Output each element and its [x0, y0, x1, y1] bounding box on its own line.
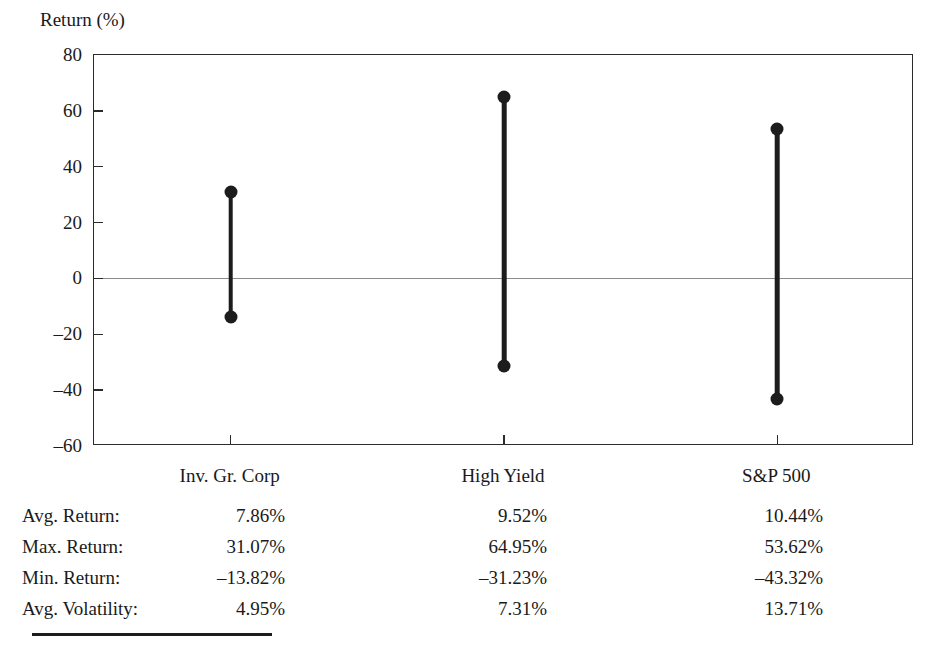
x-axis-category-label: S&P 500	[742, 463, 810, 489]
table-cell: –31.23%	[479, 562, 547, 593]
table-cell: 7.86%	[236, 500, 285, 531]
table-cell: 31.07%	[226, 531, 285, 562]
y-axis-tick	[94, 222, 103, 223]
range-bar	[775, 129, 780, 400]
y-axis-tick-label: 60	[63, 101, 82, 120]
table-cell: 53.62%	[764, 531, 823, 562]
y-axis-tick	[94, 278, 103, 279]
table-cell: 64.95%	[488, 531, 547, 562]
max-return-marker	[498, 91, 511, 104]
x-axis-category-label: High Yield	[461, 463, 544, 489]
table-cell: 9.52%	[498, 500, 547, 531]
table-row-label: Avg. Return:	[22, 500, 120, 531]
table-cell: 13.71%	[764, 593, 823, 624]
table-cell: 10.44%	[764, 500, 823, 531]
min-return-marker	[771, 393, 784, 406]
range-bar	[502, 97, 507, 366]
plot-frame	[93, 54, 913, 445]
y-axis-tick	[94, 389, 103, 390]
table-row: Avg. Volatility:4.95%7.31%13.71%	[0, 593, 927, 624]
footer-rule	[32, 633, 272, 636]
y-axis-tick-label: 20	[63, 213, 82, 232]
y-axis-tick-label: –40	[54, 380, 83, 399]
x-axis-category-labels: Inv. Gr. CorpHigh YieldS&P 500	[93, 463, 913, 491]
y-axis-tick-label: 80	[63, 45, 82, 64]
statistics-table: Avg. Return:7.86%9.52%10.44%Max. Return:…	[0, 500, 927, 624]
y-axis-tick	[94, 166, 103, 167]
table-cell: 7.31%	[498, 593, 547, 624]
min-return-marker	[224, 311, 237, 324]
table-row: Avg. Return:7.86%9.52%10.44%	[0, 500, 927, 531]
table-row: Max. Return:31.07%64.95%53.62%	[0, 531, 927, 562]
x-axis-category-label: Inv. Gr. Corp	[180, 463, 280, 489]
x-axis-tick	[503, 435, 504, 444]
max-return-marker	[224, 185, 237, 198]
y-axis-tick	[94, 334, 103, 335]
table-cell: –13.82%	[217, 562, 285, 593]
table-cell: –43.32%	[755, 562, 823, 593]
min-return-marker	[498, 359, 511, 372]
table-row-label: Min. Return:	[22, 562, 120, 593]
y-axis-tick-label: 0	[73, 268, 83, 287]
table-row: Min. Return:–13.82%–31.23%–43.32%	[0, 562, 927, 593]
max-return-marker	[771, 122, 784, 135]
y-axis-tick-label: 40	[63, 157, 82, 176]
x-axis-tick	[230, 435, 231, 444]
chart-page: Return (%) 806040200–20–40–60 Inv. Gr. C…	[0, 0, 927, 658]
y-axis-tick	[94, 110, 103, 111]
y-axis-tick-label: –20	[54, 324, 83, 343]
x-axis-tick	[777, 435, 778, 444]
table-row-label: Max. Return:	[22, 531, 123, 562]
table-row-label: Avg. Volatility:	[22, 593, 138, 624]
range-bar	[228, 192, 233, 317]
y-axis-tick-label: –60	[54, 436, 83, 455]
table-cell: 4.95%	[236, 593, 285, 624]
